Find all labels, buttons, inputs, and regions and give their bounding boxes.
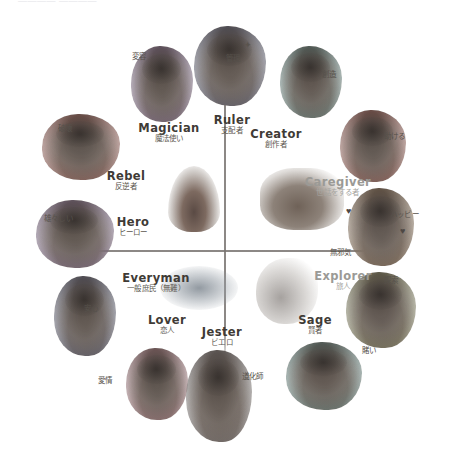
keyword-innocent: ハッビー <box>390 208 419 219</box>
label-caregiver: Caregiver 世話をする者 <box>290 176 386 197</box>
label-explorer: Explorer 旅人 <box>300 270 386 291</box>
label-hero: Hero ヒーロー <box>100 216 166 237</box>
keyword-ruler: 管理 <box>226 52 240 63</box>
keyword-jester: 道化師 <box>242 370 264 381</box>
figure-jester <box>186 350 252 442</box>
keyword-lover: 愛情 <box>98 374 112 385</box>
keyword-explorer: 探索 <box>384 274 398 285</box>
screenshot-root: ———— ———— <box>0 0 457 462</box>
keyword-innocent-jp: 無邪気 <box>330 246 352 257</box>
top-cutoff-text: ———— ———— <box>18 0 97 6</box>
label-rebel: Rebel 反逆者 <box>94 170 158 191</box>
keyword-hero: 雄々しい <box>44 212 73 223</box>
keyword-rebel: 破壊 <box>58 122 72 133</box>
figure-caregiver <box>340 110 406 182</box>
heart-icon: ♥ <box>400 226 405 236</box>
keyword-caregiver: 助ける <box>384 130 406 141</box>
keyword-everyman: 安心 <box>84 302 98 313</box>
label-magician: Magician 魔法使い <box>128 122 210 143</box>
label-sage: Sage 賢者 <box>280 314 350 335</box>
figure-creator <box>280 46 342 118</box>
archetype-wheel-diagram: Ruler 支配者 Creator 創作者 Caregiver 世話をする者 E… <box>28 18 430 438</box>
figure-sage <box>286 342 362 410</box>
keyword-magician: 変容 <box>132 50 146 61</box>
keyword-sage: 賭い <box>362 344 376 355</box>
figure-lover <box>126 348 188 420</box>
heart-icon: ♥ <box>346 206 351 216</box>
sparkle-icon: ✦ <box>244 40 252 50</box>
keyword-creator: 創造 <box>322 68 336 79</box>
fire-smudge-icon <box>168 166 220 232</box>
figure-ruler <box>194 26 266 106</box>
label-creator: Creator 創作者 <box>236 128 316 149</box>
label-lover: Lover 恋人 <box>134 314 200 335</box>
label-everyman: Everyman 一般庶民（無難） <box>94 272 218 293</box>
